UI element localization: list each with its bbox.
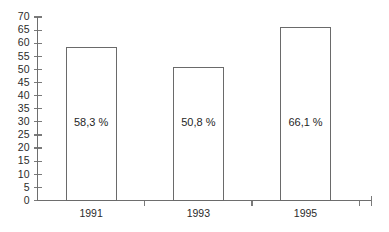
x-category-label: 1991 (79, 207, 103, 219)
y-tick-label: 65 (18, 23, 30, 35)
chart-canvas: 0510152025303540455055606570 58,3 %50,8 … (0, 0, 389, 232)
y-tick-label: 20 (18, 141, 30, 153)
y-tick-label: 25 (18, 128, 30, 140)
y-tick-label: 5 (24, 181, 30, 193)
bar (281, 27, 331, 200)
bar-value-label: 66,1 % (288, 116, 322, 128)
bar-series (67, 27, 331, 200)
y-tick-label: 15 (18, 154, 30, 166)
y-tick-label: 10 (18, 168, 30, 180)
y-tick-label: 45 (18, 76, 30, 88)
bar-value-label: 50,8 % (181, 116, 215, 128)
y-tick-label: 55 (18, 50, 30, 62)
y-tick-label: 30 (18, 115, 30, 127)
y-tick-label: 60 (18, 36, 30, 48)
bar (174, 67, 224, 200)
bar-chart-figure: 0510152025303540455055606570 58,3 %50,8 … (0, 0, 389, 232)
bar-value-label: 58,3 % (74, 116, 108, 128)
x-category-label: 1993 (187, 207, 211, 219)
y-tick-label: 0 (24, 194, 30, 206)
y-tick-label: 70 (18, 10, 30, 22)
x-category-label: 1995 (294, 207, 318, 219)
x-axis-category-labels: 199119931995 (79, 207, 317, 219)
y-tick-label: 50 (18, 63, 30, 75)
y-axis-tick-labels: 0510152025303540455055606570 (18, 10, 30, 206)
y-tick-label: 40 (18, 89, 30, 101)
y-tick-label: 35 (18, 102, 30, 114)
